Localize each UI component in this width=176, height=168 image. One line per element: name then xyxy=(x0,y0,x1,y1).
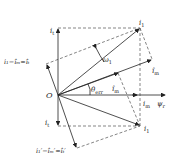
label-i-1-prime: i1 xyxy=(144,125,149,134)
label-psi-r: ψr xyxy=(157,100,166,109)
label-i-t-prime: it xyxy=(45,119,49,128)
label-lower-equation: i₁′−îₘ′=îₜ′ xyxy=(36,147,66,155)
label-i-m-axis: im xyxy=(143,100,150,109)
label-i-m-hat: îm xyxy=(152,67,159,76)
vector-i-t-hat-prime xyxy=(58,95,76,147)
label-upper-equation: i₁−îₘ=îₜ xyxy=(4,58,30,66)
vector-diagram: it i1 îm ω1 θerr îm im ψr it i1 O i₁−îₘ=… xyxy=(0,0,176,168)
label-theta-err: θerr xyxy=(91,86,104,95)
vector-i-1 xyxy=(58,29,139,95)
label-i-m-prime: îm xyxy=(112,85,119,94)
label-i-1: i1 xyxy=(139,19,144,28)
label-origin: O xyxy=(46,91,53,100)
labels: it i1 îm ω1 θerr îm im ψr it i1 O i₁−îₘ=… xyxy=(4,19,166,155)
theta-arc xyxy=(88,84,90,95)
vector-i-1-prime xyxy=(58,95,139,125)
label-omega: ω1 xyxy=(103,56,112,65)
label-i-t: it xyxy=(50,27,54,36)
